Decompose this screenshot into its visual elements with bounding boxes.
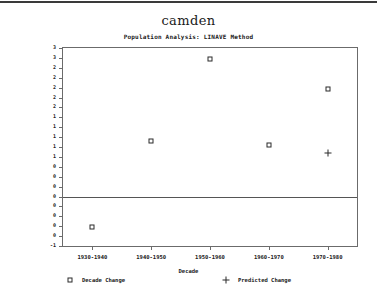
legend-item: Decade Change bbox=[66, 276, 125, 283]
data-point-decade bbox=[90, 225, 95, 230]
y-axis-tick-label: 2 bbox=[53, 84, 56, 90]
square-marker-icon bbox=[66, 276, 73, 283]
chart-page: camden Population Analysis: LINAVE Metho… bbox=[0, 0, 377, 301]
zero-reference-line bbox=[63, 197, 357, 198]
plot-area: 1930-19401940-19501950-19601960-19701970… bbox=[63, 48, 357, 246]
legend-item: Predicted Change bbox=[222, 276, 291, 283]
x-axis-tick-label: 1960-1970 bbox=[254, 254, 284, 260]
y-axis-tick bbox=[59, 88, 63, 89]
y-axis-tick bbox=[59, 48, 63, 49]
y-axis-tick-label: 1 bbox=[53, 153, 56, 159]
y-axis-tick bbox=[59, 197, 63, 198]
data-point-decade bbox=[149, 139, 154, 144]
y-axis-tick bbox=[59, 127, 63, 128]
x-axis-tick-label: 1950-1960 bbox=[195, 254, 225, 260]
y-axis-tick-label: 2 bbox=[53, 94, 56, 100]
y-axis-tick-label: 0 bbox=[53, 163, 56, 169]
x-axis-tick-label: 1970-1980 bbox=[313, 254, 343, 260]
y-axis-tick bbox=[59, 177, 63, 178]
y-axis-tick-label: 0 bbox=[53, 183, 56, 189]
y-axis-tick bbox=[59, 137, 63, 138]
y-axis-tick-label: 2 bbox=[53, 64, 56, 70]
header-rule bbox=[0, 1, 377, 3]
y-axis-tick bbox=[59, 117, 63, 118]
x-axis-tick bbox=[151, 246, 152, 250]
x-axis-tick bbox=[210, 246, 211, 250]
y-axis-tick bbox=[59, 78, 63, 79]
y-axis-tick bbox=[59, 147, 63, 148]
data-point-decade bbox=[208, 56, 213, 61]
y-axis-tick-label: 0 bbox=[53, 173, 56, 179]
data-point-predicted bbox=[324, 149, 331, 156]
y-axis-tick bbox=[59, 206, 63, 207]
chart-legend: Decade ChangePredicted Change bbox=[0, 276, 377, 290]
legend-label: Predicted Change bbox=[238, 277, 291, 283]
y-axis-tick-label: 1 bbox=[53, 123, 56, 129]
y-axis-tick-label: 0 bbox=[53, 212, 56, 218]
x-axis-title: Decade bbox=[0, 268, 377, 274]
plus-marker-icon bbox=[222, 276, 229, 283]
x-axis-tick bbox=[269, 246, 270, 250]
y-axis-tick bbox=[59, 157, 63, 158]
y-axis-tick bbox=[59, 236, 63, 237]
data-point-decade bbox=[325, 86, 330, 91]
y-axis-tick bbox=[59, 216, 63, 217]
y-axis-tick-label: 1 bbox=[53, 143, 56, 149]
y-axis-tick-label: 0 bbox=[53, 222, 56, 228]
data-point-decade bbox=[266, 142, 271, 147]
y-axis-tick bbox=[59, 98, 63, 99]
plot-frame: 1930-19401940-19501950-19601960-19701970… bbox=[62, 47, 358, 247]
y-axis-tick-label: 1 bbox=[53, 113, 56, 119]
y-axis-tick-label: 0 bbox=[53, 232, 56, 238]
x-axis-tick-label: 1930-1940 bbox=[77, 254, 107, 260]
x-axis-tick bbox=[328, 246, 329, 250]
chart-subtitle: Population Analysis: LINAVE Method bbox=[0, 33, 377, 40]
y-axis-tick-label: 0 bbox=[53, 202, 56, 208]
y-axis-tick bbox=[59, 187, 63, 188]
y-axis-tick-label: -1 bbox=[50, 242, 56, 248]
y-axis-tick bbox=[59, 58, 63, 59]
y-axis-tick-label: 3 bbox=[53, 54, 56, 60]
legend-label: Decade Change bbox=[82, 277, 125, 283]
page-title: camden bbox=[0, 13, 377, 28]
y-axis-tick-label: 2 bbox=[53, 74, 56, 80]
y-axis-tick bbox=[59, 107, 63, 108]
y-axis-tick-label: 0 bbox=[53, 193, 56, 199]
legend-marker bbox=[67, 277, 72, 282]
y-axis-tick-label: 1 bbox=[53, 133, 56, 139]
x-axis-tick bbox=[92, 246, 93, 250]
y-axis-tick bbox=[59, 68, 63, 69]
y-axis-tick-label: 3 bbox=[53, 44, 56, 50]
y-axis-tick bbox=[59, 167, 63, 168]
y-axis-tick bbox=[59, 226, 63, 227]
legend-marker bbox=[222, 276, 229, 283]
y-axis-tick bbox=[59, 246, 63, 247]
y-axis-tick-label: 2 bbox=[53, 103, 56, 109]
x-axis-tick-label: 1940-1950 bbox=[136, 254, 166, 260]
